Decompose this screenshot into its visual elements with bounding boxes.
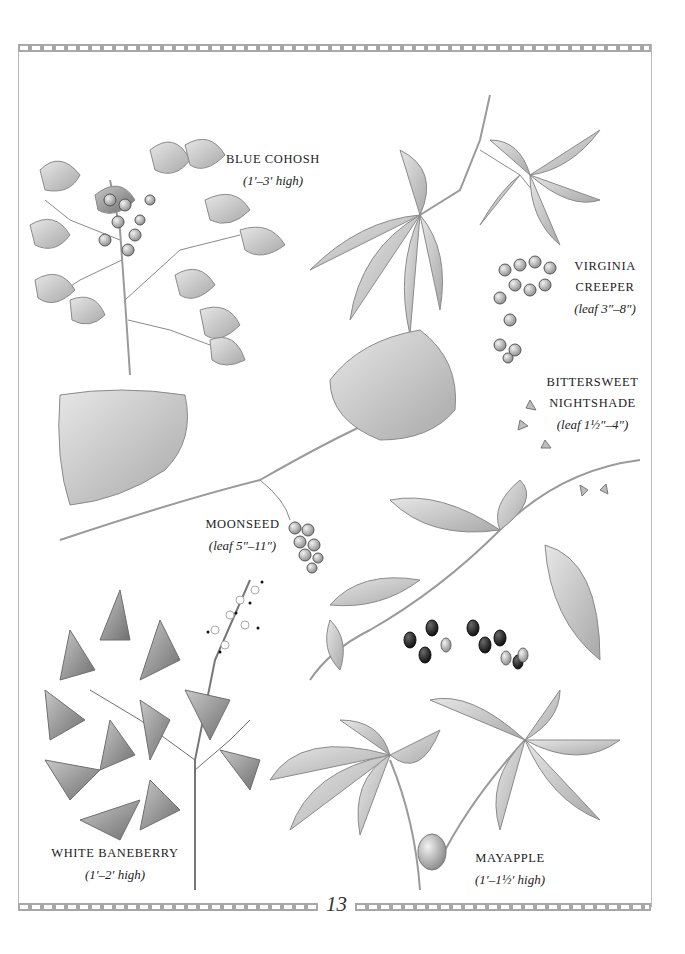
plant-size: (leaf 3″–8″) (565, 298, 645, 319)
plant-size: (leaf 1½″–4″) (540, 414, 645, 435)
virginia-creeper-illustration (310, 95, 600, 363)
plant-name-line2: CREEPER (565, 277, 645, 298)
label-white-baneberry: WHITE BANEBERRY (1′–2′ high) (40, 843, 190, 885)
plant-name-line1: VIRGINIA (565, 256, 645, 277)
plant-name: MAYAPPLE (455, 848, 565, 869)
plant-name-line2: NIGHTSHADE (540, 393, 645, 414)
plant-name: WHITE BANEBERRY (40, 843, 190, 864)
bittersweet-nightshade-illustration (310, 400, 640, 680)
label-moonseed: MOONSEED (leaf 5″–11″) (195, 514, 290, 556)
botanical-illustrations (0, 0, 685, 954)
label-blue-cohosh: BLUE COHOSH (1′–3′ high) (218, 149, 328, 191)
plant-size: (1′–2′ high) (40, 864, 190, 885)
plant-name: MOONSEED (195, 514, 290, 535)
mayapple-fruit (418, 834, 446, 870)
plant-name-line1: BITTERSWEET (540, 372, 645, 393)
plant-size: (leaf 5″–11″) (195, 535, 290, 556)
plant-name: BLUE COHOSH (218, 149, 328, 170)
label-bittersweet-nightshade: BITTERSWEET NIGHTSHADE (leaf 1½″–4″) (540, 372, 645, 435)
label-virginia-creeper: VIRGINIA CREEPER (leaf 3″–8″) (565, 256, 645, 319)
plant-size: (1′–1½′ high) (455, 869, 565, 890)
mayapple-illustration (270, 690, 620, 890)
label-mayapple: MAYAPPLE (1′–1½′ high) (455, 848, 565, 890)
plant-size: (1′–3′ high) (218, 170, 328, 191)
